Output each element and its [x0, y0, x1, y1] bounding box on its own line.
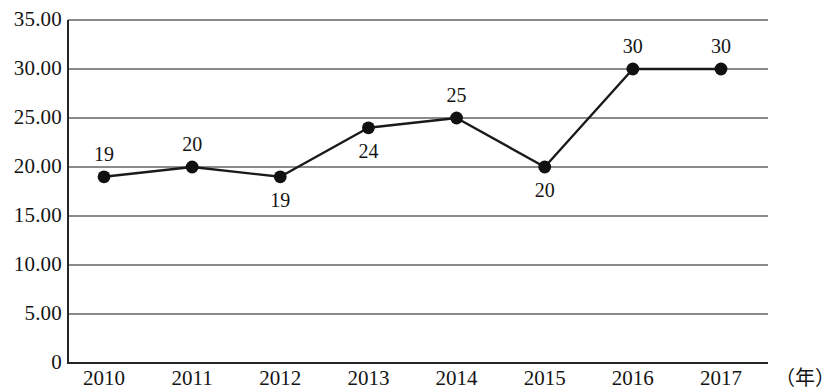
data-point-label: 19 [270, 190, 290, 210]
data-point-label: 25 [447, 85, 467, 105]
data-point-label: 20 [182, 134, 202, 154]
data-point-label: 30 [711, 36, 731, 56]
data-point-label: 24 [358, 141, 378, 161]
data-point-label: 20 [535, 180, 555, 200]
data-point-label: 19 [94, 144, 114, 164]
data-point-label: 30 [623, 36, 643, 56]
